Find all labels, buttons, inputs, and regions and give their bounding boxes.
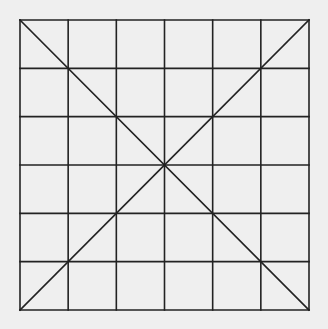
- diagram-canvas: [0, 0, 328, 329]
- grid-diagram: [0, 0, 328, 329]
